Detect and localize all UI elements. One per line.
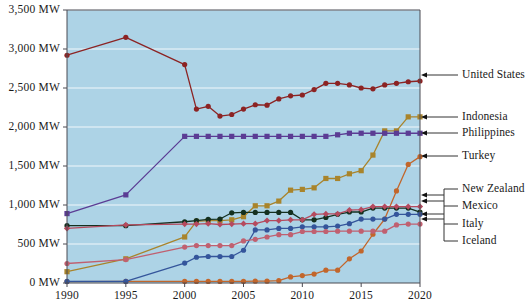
data-point-marker [359,168,364,173]
data-point-marker [276,134,281,139]
data-point-marker [335,223,340,228]
data-point-marker [241,106,246,111]
data-point-marker [241,248,246,253]
x-axis-tick-label: 2005 [214,289,274,301]
data-point-marker [217,134,222,139]
y-axis-tick-label: 0 MW [29,276,60,288]
data-point-marker [382,131,387,136]
data-point-marker [229,243,234,248]
data-point-marker [276,226,281,231]
data-point-marker [123,257,128,262]
data-point-marker [217,254,222,259]
legend-label-united-states[interactable]: United States [462,68,525,80]
data-point-marker [253,237,258,242]
data-point-marker [406,212,411,217]
data-point-marker [182,134,187,139]
x-axis-tick-label: 1990 [37,289,97,301]
legend-arrow-icon [421,216,427,221]
data-point-marker [323,224,328,229]
data-point-marker [253,134,258,139]
data-point-marker [359,131,364,136]
data-point-marker [312,224,317,229]
data-point-marker [335,176,340,181]
data-point-marker [347,256,352,261]
data-point-marker [370,216,375,221]
data-point-marker [300,92,305,97]
data-point-marker [406,131,411,136]
data-point-marker [394,131,399,136]
data-point-marker [382,229,387,234]
legend-label-indonesia[interactable]: Indonesia [462,110,508,122]
data-point-marker [382,82,387,87]
data-point-marker [194,243,199,248]
data-point-marker [406,79,411,84]
data-point-marker [394,212,399,217]
x-axis-tick-label: 2015 [331,289,391,301]
data-point-marker [288,210,293,215]
data-point-marker [288,226,293,231]
data-point-marker [241,238,246,243]
data-point-marker [323,176,328,181]
x-axis-tick-label: 2010 [272,289,332,301]
legend-label-turkey[interactable]: Turkey [462,149,495,161]
data-point-marker [276,232,281,237]
data-point-marker [300,229,305,234]
data-point-marker [347,221,352,226]
data-point-marker [217,113,222,118]
data-point-marker [312,87,317,92]
data-point-marker [276,199,281,204]
data-point-marker [229,210,234,215]
data-point-marker [312,185,317,190]
data-point-marker [300,187,305,192]
legend-label-iceland[interactable]: Iceland [462,234,497,246]
data-point-marker [370,229,375,234]
data-point-marker [253,227,258,232]
data-point-marker [288,188,293,193]
data-point-marker [194,134,199,139]
y-axis-tick-label: 2,500 MW [9,81,60,93]
data-point-marker [253,210,258,215]
data-point-marker [276,278,281,283]
data-point-marker [123,192,128,197]
data-point-marker [406,162,411,167]
legend-label-italy[interactable]: Italy [462,217,484,229]
y-axis-tick-label: 2,000 MW [9,120,60,132]
data-point-marker [406,114,411,119]
x-axis-tick-label: 2020 [390,289,450,301]
data-point-marker [182,245,187,250]
y-axis-tick-label: 1,500 MW [9,159,60,171]
data-point-marker [312,217,317,222]
data-point-marker [300,273,305,278]
data-point-marker [264,134,269,139]
legend-label-new-zealand[interactable]: New Zealand [462,182,525,194]
data-point-marker [264,227,269,232]
data-point-marker [229,112,234,117]
data-point-marker [264,234,269,239]
legend-arrow-icon [421,198,427,203]
data-point-marker [406,222,411,227]
data-point-marker [276,96,281,101]
data-point-marker [194,255,199,260]
legend-label-philippines[interactable]: Philippines [462,126,515,138]
legend-arrow-icon [421,72,427,77]
data-point-marker [323,81,328,86]
legend-label-mexico[interactable]: Mexico [462,199,498,211]
legend-arrow-icon [421,192,427,197]
data-point-marker [288,232,293,237]
data-point-marker [359,216,364,221]
data-point-marker [382,216,387,221]
data-point-marker [241,210,246,215]
data-point-marker [335,268,340,273]
data-point-marker [182,261,187,266]
data-point-marker [335,132,340,137]
data-point-marker [123,35,128,40]
data-point-marker [206,134,211,139]
data-point-marker [206,104,211,109]
y-axis-tick-label: 3,500 MW [9,3,60,15]
data-point-marker [194,106,199,111]
data-point-marker [394,188,399,193]
data-point-marker [264,103,269,108]
data-point-marker [323,229,328,234]
data-point-marker [323,268,328,273]
data-point-marker [300,134,305,139]
